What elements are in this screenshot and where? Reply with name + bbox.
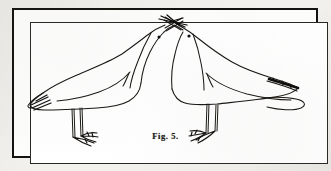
left-bird-neck-front xyxy=(141,32,164,83)
right-bird-leg-rear-b xyxy=(217,105,218,131)
right-bird-legs xyxy=(206,104,218,133)
left-bird-nape-line xyxy=(130,33,151,88)
right-bird-tail xyxy=(262,97,304,109)
right-bird-wingtip-marking xyxy=(269,79,298,88)
left-bird xyxy=(28,18,183,110)
right-bird-nape-line xyxy=(193,34,204,90)
figure-page: Fig. 5. xyxy=(0,0,331,171)
right-bird-leg-front xyxy=(206,104,207,133)
right-bird-leg-rear xyxy=(215,105,216,131)
left-bird-shoulder-mark xyxy=(123,73,129,86)
right-bird-neck-front xyxy=(172,32,183,89)
left-bird-wing-line xyxy=(57,72,130,101)
figure-caption: Fig. 5. xyxy=(0,131,331,141)
left-bird-eye xyxy=(158,36,161,39)
right-bird-eye xyxy=(187,34,190,37)
right-bird xyxy=(164,17,304,110)
left-bird-wingtip-marking xyxy=(31,95,51,110)
right-bird-leg-front-b xyxy=(208,104,209,133)
